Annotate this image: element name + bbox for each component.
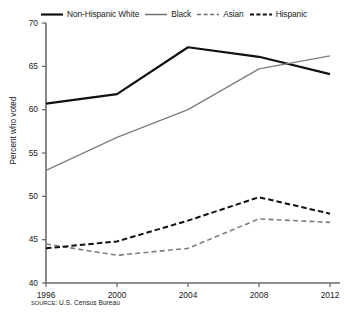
y-axis-tick-label: 55 bbox=[12, 149, 38, 157]
y-axis-tick-label: 60 bbox=[12, 105, 38, 113]
y-axis-tick-label: 45 bbox=[12, 235, 38, 243]
x-axis-tick-label: 2008 bbox=[239, 291, 279, 299]
y-axis-tick-label: 70 bbox=[12, 19, 38, 27]
source-note: SOURCE: U.S. Census Bureau bbox=[31, 299, 120, 306]
plot-area bbox=[0, 0, 348, 319]
series-line-asian bbox=[46, 219, 330, 255]
series-line-black bbox=[46, 56, 330, 170]
y-axis-tick-label: 50 bbox=[12, 192, 38, 200]
x-axis-tick-label: 2004 bbox=[168, 291, 208, 299]
data-series-layer bbox=[46, 47, 330, 255]
y-axis-tick-label: 40 bbox=[12, 279, 38, 287]
source-text: : U.S. Census Bureau bbox=[55, 299, 120, 306]
series-line-non-hispanic-white bbox=[46, 47, 330, 103]
y-axis-tick-label: 65 bbox=[12, 62, 38, 70]
chart-figure: Non-Hispanic White Black Asian Hispanic … bbox=[0, 0, 348, 319]
series-line-hispanic bbox=[46, 197, 330, 248]
x-axis-tick-label: 2012 bbox=[310, 291, 348, 299]
source-prefix: SOURCE bbox=[31, 300, 55, 306]
